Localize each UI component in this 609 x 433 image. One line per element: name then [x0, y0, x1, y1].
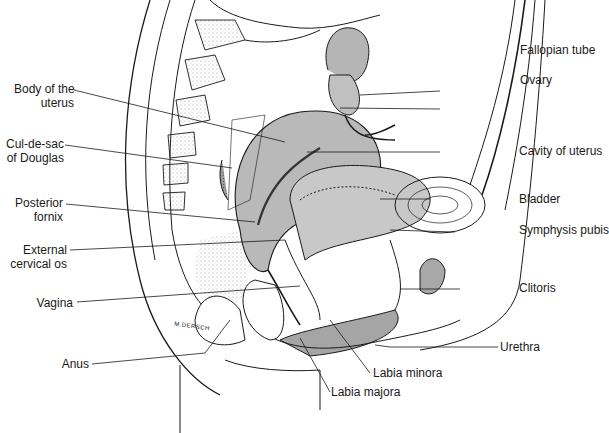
label-line: Clitoris — [519, 281, 556, 295]
label-external-cervical-os: External cervical os — [0, 243, 67, 271]
fallopian-tube — [326, 28, 369, 82]
label-urethra: Urethra — [500, 340, 540, 354]
label-posterior-fornix: Posterior fornix — [0, 196, 63, 224]
label-line: Symphysis pubis — [519, 223, 609, 237]
label-line: Posterior — [0, 196, 63, 210]
label-line: fornix — [0, 210, 63, 224]
bladder — [290, 165, 430, 260]
label-line: Bladder — [519, 192, 560, 206]
label-cavity-of-uterus: Cavity of uterus — [519, 144, 602, 158]
label-line: Ovary — [520, 73, 552, 87]
ovary — [329, 75, 360, 115]
label-ovary: Ovary — [520, 73, 552, 87]
label-line: Body of the — [14, 82, 74, 96]
label-vagina: Vagina — [0, 296, 73, 310]
label-line: Cul-de-sac — [0, 137, 64, 151]
label-line: Anus — [0, 357, 89, 371]
label-fallopian-tube: Fallopian tube — [520, 43, 595, 57]
label-line: External — [0, 243, 67, 257]
label-anus: Anus — [0, 357, 89, 371]
label-line: Vagina — [0, 296, 73, 310]
label-line: of Douglas — [0, 151, 64, 165]
label-line: uterus — [14, 96, 74, 110]
label-line: cervical os — [0, 257, 67, 271]
label-labia-minora: Labia minora — [373, 366, 442, 380]
label-bladder: Bladder — [519, 192, 560, 206]
labia — [280, 310, 398, 356]
label-cul-de-sac: Cul-de-sac of Douglas — [0, 137, 64, 165]
label-clitoris: Clitoris — [519, 281, 556, 295]
label-line: Cavity of uterus — [519, 144, 602, 158]
label-line: Labia minora — [373, 366, 442, 380]
label-line: Labia majora — [331, 385, 400, 399]
label-body-of-uterus: Body of the uterus — [14, 82, 74, 110]
label-line: Urethra — [500, 340, 540, 354]
label-line: Fallopian tube — [520, 43, 595, 57]
label-labia-majora: Labia majora — [331, 385, 400, 399]
label-symphysis-pubis: Symphysis pubis — [519, 223, 609, 237]
